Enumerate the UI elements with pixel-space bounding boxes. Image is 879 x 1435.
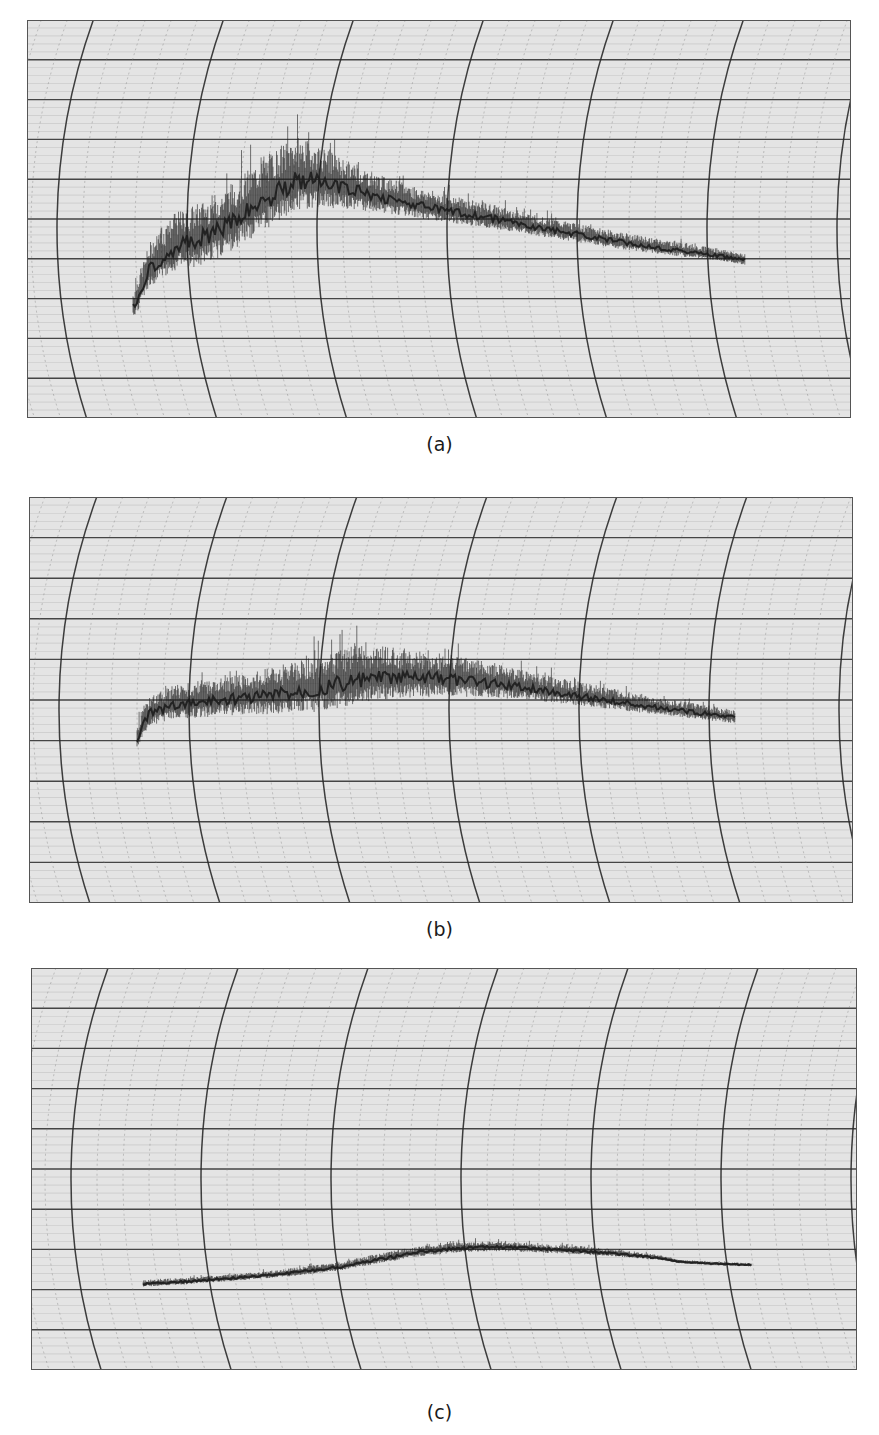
panel-label-c: (c) (0, 1401, 879, 1423)
strip-chart-grid-and-trace (27, 20, 851, 418)
panel-label-a: (a) (0, 433, 879, 455)
chart-panel-c (31, 968, 857, 1370)
chart-panel-a (27, 20, 851, 418)
panel-label-b: (b) (0, 918, 879, 940)
chart-panel-b (29, 497, 853, 903)
strip-chart-grid-and-trace (29, 497, 853, 903)
strip-chart-grid-and-trace (31, 968, 857, 1370)
signal-trace (137, 626, 735, 747)
